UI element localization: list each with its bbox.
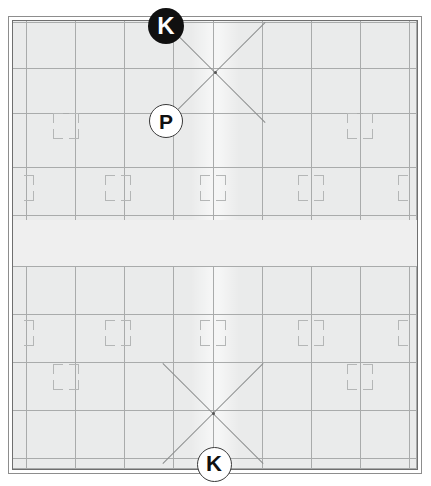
bracket-corner-tr xyxy=(216,320,226,330)
drawing-canvas: KPK xyxy=(0,0,431,486)
cross-center-node xyxy=(214,71,217,74)
marker-label: K xyxy=(206,453,222,475)
grid-line-horizontal xyxy=(13,22,417,23)
bracket-corner-tr xyxy=(363,113,373,123)
grid-line-horizontal xyxy=(13,266,417,267)
fixture-bracket-mark xyxy=(297,319,325,347)
fixture-bracket-mark xyxy=(104,174,132,202)
grid-line-vertical xyxy=(311,266,312,469)
fixture-bracket-mark-edge xyxy=(397,174,417,202)
fixture-bracket-mark-edge xyxy=(13,174,35,202)
bracket-corner-tl xyxy=(347,113,357,123)
fixture-bracket-mark xyxy=(346,112,374,140)
marker-p[interactable]: P xyxy=(149,104,183,138)
grid-line-vertical xyxy=(409,266,410,469)
marker-label: P xyxy=(159,111,173,132)
bracket-corner-tr xyxy=(363,364,373,374)
bracket-corner-br xyxy=(314,336,324,346)
bracket-corner-br xyxy=(216,191,226,201)
bracket-corner-tr xyxy=(24,175,34,185)
grid-line-vertical xyxy=(173,266,174,469)
fixture-bracket-mark xyxy=(297,174,325,202)
bracket-corner-bl xyxy=(347,380,357,390)
grid-line-horizontal xyxy=(13,167,417,168)
cross-diagonal xyxy=(163,363,214,414)
grid-line-vertical xyxy=(213,266,214,469)
bracket-corner-br xyxy=(216,336,226,346)
bracket-corner-bl xyxy=(200,336,210,346)
fixture-bracket-mark-edge xyxy=(13,319,35,347)
bracket-corner-tr xyxy=(314,320,324,330)
cross-diagonal xyxy=(215,22,266,73)
grid-line-horizontal xyxy=(13,314,417,315)
grid-line-vertical xyxy=(26,266,27,469)
fixture-bracket-mark xyxy=(52,112,80,140)
bracket-corner-bl xyxy=(53,380,63,390)
bracket-corner-bl xyxy=(105,191,115,201)
bracket-corner-bl xyxy=(298,336,308,346)
bracket-corner-bl xyxy=(398,191,408,201)
bracket-corner-tr xyxy=(314,175,324,185)
bracket-corner-bl xyxy=(105,336,115,346)
grid-line-horizontal xyxy=(13,68,417,69)
grid-line-vertical xyxy=(416,266,417,469)
marker-k-bottom[interactable]: K xyxy=(197,447,232,482)
bracket-corner-br xyxy=(314,191,324,201)
cross-diagonal xyxy=(215,72,266,123)
bracket-corner-tl xyxy=(105,320,115,330)
bracket-corner-tr xyxy=(69,113,79,123)
bracket-corner-tr xyxy=(69,364,79,374)
plan-blank-band xyxy=(13,220,417,266)
bracket-corner-br xyxy=(363,129,373,139)
fixture-bracket-mark xyxy=(199,319,227,347)
bracket-corner-tr xyxy=(24,320,34,330)
bracket-corner-bl xyxy=(298,191,308,201)
bracket-corner-bl xyxy=(347,129,357,139)
bracket-corner-br xyxy=(121,191,131,201)
grid-line-vertical xyxy=(262,266,263,469)
bracket-corner-tr xyxy=(121,320,131,330)
bracket-corner-tl xyxy=(347,364,357,374)
marker-k-top[interactable]: K xyxy=(148,8,184,44)
bracket-corner-br xyxy=(24,336,34,346)
bracket-corner-br xyxy=(24,191,34,201)
cross-center-node xyxy=(212,412,215,415)
bracket-corner-tl xyxy=(398,320,408,330)
bracket-corner-tl xyxy=(200,175,210,185)
bracket-corner-br xyxy=(363,380,373,390)
grid-line-vertical xyxy=(124,266,125,469)
fixture-bracket-mark xyxy=(52,363,80,391)
bracket-corner-br xyxy=(69,380,79,390)
grid-line-horizontal xyxy=(13,215,417,216)
fixture-bracket-mark xyxy=(199,174,227,202)
cross-diagonal xyxy=(213,363,264,414)
bracket-corner-bl xyxy=(53,129,63,139)
bracket-corner-br xyxy=(121,336,131,346)
bracket-corner-tr xyxy=(121,175,131,185)
bracket-corner-tl xyxy=(398,175,408,185)
bracket-corner-br xyxy=(69,129,79,139)
bracket-corner-tl xyxy=(298,175,308,185)
bracket-corner-tl xyxy=(298,320,308,330)
bracket-corner-bl xyxy=(398,336,408,346)
fixture-bracket-mark xyxy=(346,363,374,391)
fixture-bracket-mark xyxy=(104,319,132,347)
bracket-corner-tl xyxy=(200,320,210,330)
bracket-corner-tl xyxy=(53,364,63,374)
plan-sheet xyxy=(13,21,417,469)
bracket-corner-tl xyxy=(105,175,115,185)
bracket-corner-tl xyxy=(53,113,63,123)
bracket-corner-tr xyxy=(216,175,226,185)
bracket-corner-bl xyxy=(200,191,210,201)
marker-label: K xyxy=(157,14,174,38)
fixture-bracket-mark-edge xyxy=(397,319,417,347)
